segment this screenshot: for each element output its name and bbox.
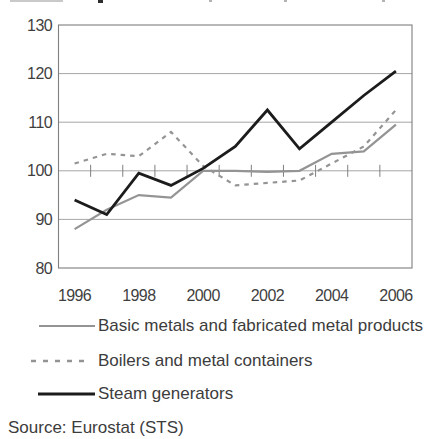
series-line-basic-metals-and-fabricated-metal-products [75, 125, 396, 230]
x-axis-label: 2004 [315, 287, 349, 304]
source-note: Source: Eurostat (STS) [8, 418, 184, 438]
legend-label: Boilers and metal containers [98, 351, 313, 371]
y-axis-label: 120 [27, 65, 53, 82]
legend-label: Steam generators [98, 384, 233, 404]
series-line-steam-generators [75, 71, 396, 214]
x-axis-label: 1996 [58, 287, 92, 304]
legend-item-boilers: Boilers and metal containers [0, 351, 313, 371]
x-axis-label: 2000 [187, 287, 221, 304]
y-axis-label: 110 [28, 114, 52, 131]
x-axis-label: 1998 [122, 287, 156, 304]
solid-line-swatch [0, 322, 96, 330]
legend-item-basic-metals: Basic metals and fabricated metal produc… [0, 316, 423, 336]
chart-svg: 1301201101009080199619982000200220042006 [0, 0, 436, 312]
dashed-line-swatch [0, 357, 96, 365]
index-line-chart: 1301201101009080199619982000200220042006 [0, 0, 436, 312]
y-axis-label: 80 [35, 260, 52, 277]
x-axis-label: 2006 [379, 287, 413, 304]
y-axis-label: 130 [27, 17, 53, 34]
solid-line-swatch [0, 390, 96, 398]
legend-label: Basic metals and fabricated metal produc… [98, 316, 423, 336]
y-axis-label: 90 [35, 211, 52, 228]
legend-item-steam-generators: Steam generators [0, 384, 233, 404]
y-axis-label: 100 [27, 162, 53, 179]
x-axis-label: 2002 [251, 287, 285, 304]
